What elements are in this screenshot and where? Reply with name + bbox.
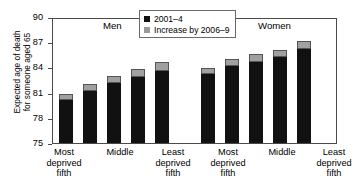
bar-segment-2001-4 <box>225 66 239 143</box>
x-label-line: fifth <box>32 168 96 179</box>
bar-segment-2001-4 <box>201 74 215 143</box>
legend-label-1: 2001–4 <box>154 14 183 24</box>
x-label-line: fifth <box>302 168 356 179</box>
bar-segment-increase-2006-9 <box>297 41 311 49</box>
bar-women-5 <box>297 41 311 143</box>
y-tick-label-81: 81 <box>33 88 43 99</box>
bar-segment-2001-4 <box>83 91 97 143</box>
bar-segment-2001-4 <box>273 57 287 143</box>
bar-men-3 <box>107 76 121 143</box>
bar-men-5 <box>155 62 169 143</box>
y-tick-label-90: 90 <box>33 12 43 23</box>
bar-men-1 <box>59 94 73 143</box>
bar-segment-increase-2006-9 <box>107 76 121 84</box>
bar-segment-increase-2006-9 <box>155 62 169 70</box>
bar-women-2 <box>225 59 239 143</box>
bar-segment-2001-4 <box>249 62 263 143</box>
y-axis-title: Expected age of death for someone aged 6… <box>12 6 32 138</box>
x-label-women-least-deprived: Least deprived fifth <box>302 147 356 179</box>
bar-men-4 <box>131 69 145 143</box>
group-label-women: Women <box>258 20 291 31</box>
bar-segment-increase-2006-9 <box>225 59 239 66</box>
legend-item-increase: Increase by 2006–9 <box>144 24 230 35</box>
bar-women-3 <box>249 54 263 143</box>
y-tick-label-84: 84 <box>33 62 43 73</box>
legend-item-2001-4: 2001–4 <box>144 13 230 24</box>
bar-segment-increase-2006-9 <box>59 94 73 100</box>
x-label-line: Least <box>302 147 356 158</box>
bar-segment-increase-2006-9 <box>201 68 215 74</box>
bar-women-4 <box>273 50 287 143</box>
x-label-line: fifth <box>196 168 260 179</box>
legend-swatch-icon <box>144 27 150 33</box>
x-label-line: deprived <box>32 158 96 169</box>
x-label-line: deprived <box>196 158 260 169</box>
x-label-line: deprived <box>302 158 356 169</box>
y-tick-label-87: 87 <box>33 37 43 48</box>
legend-label-2: Increase by 2006–9 <box>154 25 230 35</box>
bar-segment-2001-4 <box>155 71 169 143</box>
legend-swatch-icon <box>144 16 150 22</box>
y-tick-label-78: 78 <box>33 113 43 124</box>
bar-men-2 <box>83 84 97 143</box>
bar-segment-2001-4 <box>107 83 121 143</box>
y-tick-mark <box>48 144 52 145</box>
bar-segment-increase-2006-9 <box>249 54 263 62</box>
x-label-line: Most <box>32 147 96 158</box>
group-label-men: Men <box>103 20 122 31</box>
y-axis-title-line1: Expected age of death <box>12 6 22 138</box>
bar-segment-increase-2006-9 <box>83 84 97 91</box>
bar-segment-2001-4 <box>131 77 145 143</box>
y-axis-title-line2: for someone aged 65 <box>22 6 32 138</box>
chart-legend: 2001–4 Increase by 2006–9 <box>139 10 236 38</box>
x-label-men-most-deprived: Most deprived fifth <box>32 147 96 179</box>
bar-segment-2001-4 <box>59 100 73 143</box>
bar-segment-2001-4 <box>297 49 311 143</box>
bar-segment-increase-2006-9 <box>131 69 145 77</box>
bar-segment-increase-2006-9 <box>273 50 287 58</box>
bar-women-1 <box>201 68 215 143</box>
